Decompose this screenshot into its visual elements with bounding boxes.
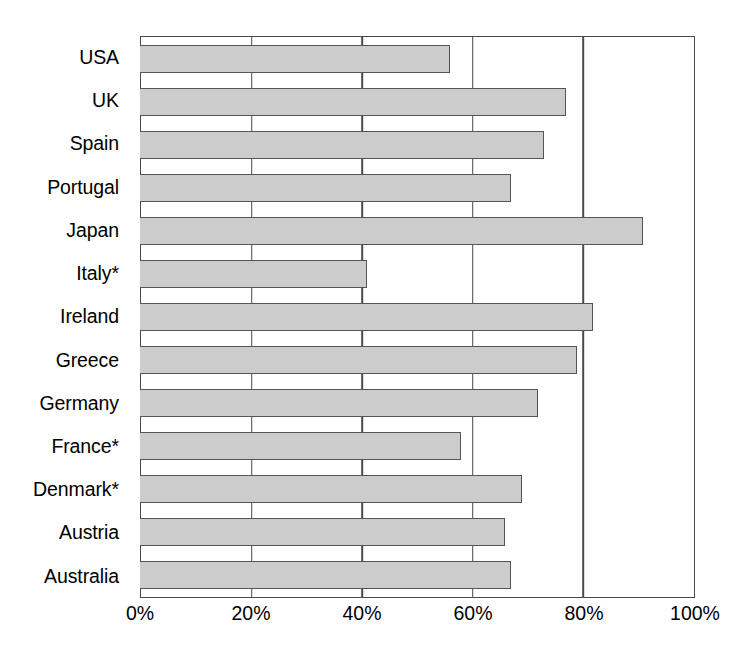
y-axis-label: Ireland bbox=[60, 307, 119, 327]
y-axis-label: Portugal bbox=[47, 178, 119, 198]
bar-row bbox=[141, 123, 694, 166]
y-axis-label: Denmark* bbox=[33, 480, 119, 500]
bar-spain[interactable] bbox=[140, 131, 544, 159]
y-axis-label: Austria bbox=[59, 523, 119, 543]
bar-greece[interactable] bbox=[140, 346, 577, 374]
y-axis-label: Spain bbox=[70, 134, 119, 154]
y-axis-label-row: France* bbox=[0, 425, 130, 468]
bar-austria[interactable] bbox=[140, 518, 505, 546]
x-tick-label: 100% bbox=[670, 604, 720, 624]
x-tick-label: 80% bbox=[564, 604, 603, 624]
x-tick-label: 20% bbox=[231, 604, 270, 624]
bar-row bbox=[141, 80, 694, 123]
bar-row bbox=[141, 166, 694, 209]
bar-uk[interactable] bbox=[140, 88, 566, 116]
bar-portugal[interactable] bbox=[140, 174, 511, 202]
bar-row bbox=[141, 382, 694, 425]
bar-row bbox=[141, 209, 694, 252]
bar-japan[interactable] bbox=[140, 217, 643, 245]
bar-germany[interactable] bbox=[140, 389, 538, 417]
y-axis-label-row: Spain bbox=[0, 122, 130, 165]
bar-row bbox=[141, 252, 694, 295]
y-axis-label: Australia bbox=[44, 567, 119, 587]
y-axis-label: UK bbox=[92, 91, 119, 111]
y-axis-label: Japan bbox=[66, 221, 119, 241]
bar-row bbox=[141, 554, 694, 597]
y-axis-label-row: Japan bbox=[0, 209, 130, 252]
bar-chart: USAUKSpainPortugalJapanItaly*IrelandGree… bbox=[0, 0, 748, 655]
y-axis-label: France* bbox=[51, 437, 119, 457]
y-axis-label-row: UK bbox=[0, 79, 130, 122]
y-axis-label-row: Denmark* bbox=[0, 468, 130, 511]
plot-area bbox=[140, 36, 695, 598]
y-axis-label-row: Greece bbox=[0, 339, 130, 382]
bar-denmark[interactable] bbox=[140, 475, 522, 503]
y-axis-label: Germany bbox=[40, 394, 120, 414]
bar-italy[interactable] bbox=[140, 260, 367, 288]
bars-layer bbox=[141, 37, 694, 597]
y-axis-label-row: Italy* bbox=[0, 252, 130, 295]
bar-australia[interactable] bbox=[140, 561, 511, 589]
y-axis-category-labels: USAUKSpainPortugalJapanItaly*IrelandGree… bbox=[0, 36, 130, 598]
y-axis-label-row: USA bbox=[0, 36, 130, 79]
y-axis-label: Greece bbox=[56, 351, 119, 371]
x-tick-label: 0% bbox=[126, 604, 154, 624]
y-axis-label-row: Portugal bbox=[0, 166, 130, 209]
y-axis-label-row: Austria bbox=[0, 512, 130, 555]
y-axis-label-row: Australia bbox=[0, 555, 130, 598]
y-axis-label: Italy* bbox=[76, 264, 119, 284]
bar-row bbox=[141, 425, 694, 468]
bar-row bbox=[141, 37, 694, 80]
x-axis-tick-labels: 0%20%40%60%80%100% bbox=[140, 604, 695, 638]
bar-ireland[interactable] bbox=[140, 303, 593, 331]
bar-row bbox=[141, 468, 694, 511]
bar-usa[interactable] bbox=[140, 45, 450, 73]
bar-row bbox=[141, 511, 694, 554]
bar-row bbox=[141, 339, 694, 382]
x-tick-label: 60% bbox=[453, 604, 492, 624]
y-axis-label-row: Ireland bbox=[0, 295, 130, 338]
y-axis-label-row: Germany bbox=[0, 382, 130, 425]
bar-row bbox=[141, 295, 694, 338]
y-axis-label: USA bbox=[79, 48, 119, 68]
bar-france[interactable] bbox=[140, 432, 461, 460]
x-tick-label: 40% bbox=[342, 604, 381, 624]
